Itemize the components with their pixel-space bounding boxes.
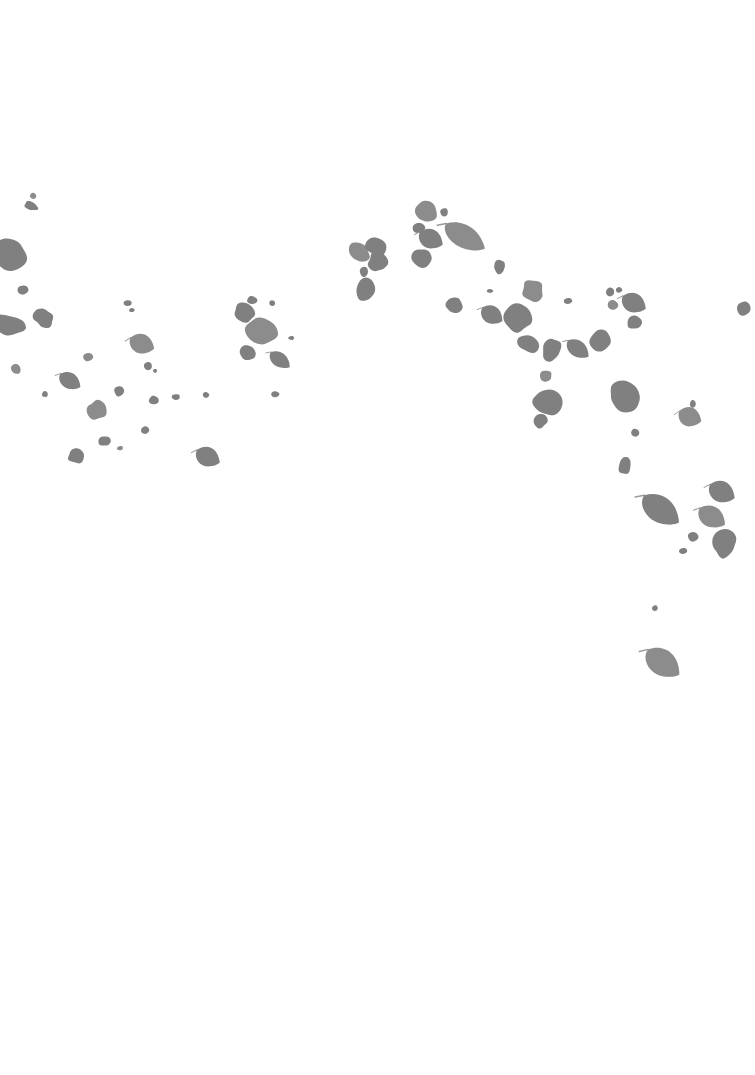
- leaf-shape: [540, 371, 551, 382]
- illustration-page: [0, 0, 755, 1075]
- leaf-body: [124, 300, 132, 306]
- leaf-body: [540, 371, 551, 382]
- page-background: [0, 0, 755, 1075]
- leaf-body: [98, 436, 110, 445]
- scattered-leaves-artwork: [0, 0, 755, 1075]
- leaf-shape: [124, 300, 132, 306]
- leaf-shape: [98, 436, 110, 445]
